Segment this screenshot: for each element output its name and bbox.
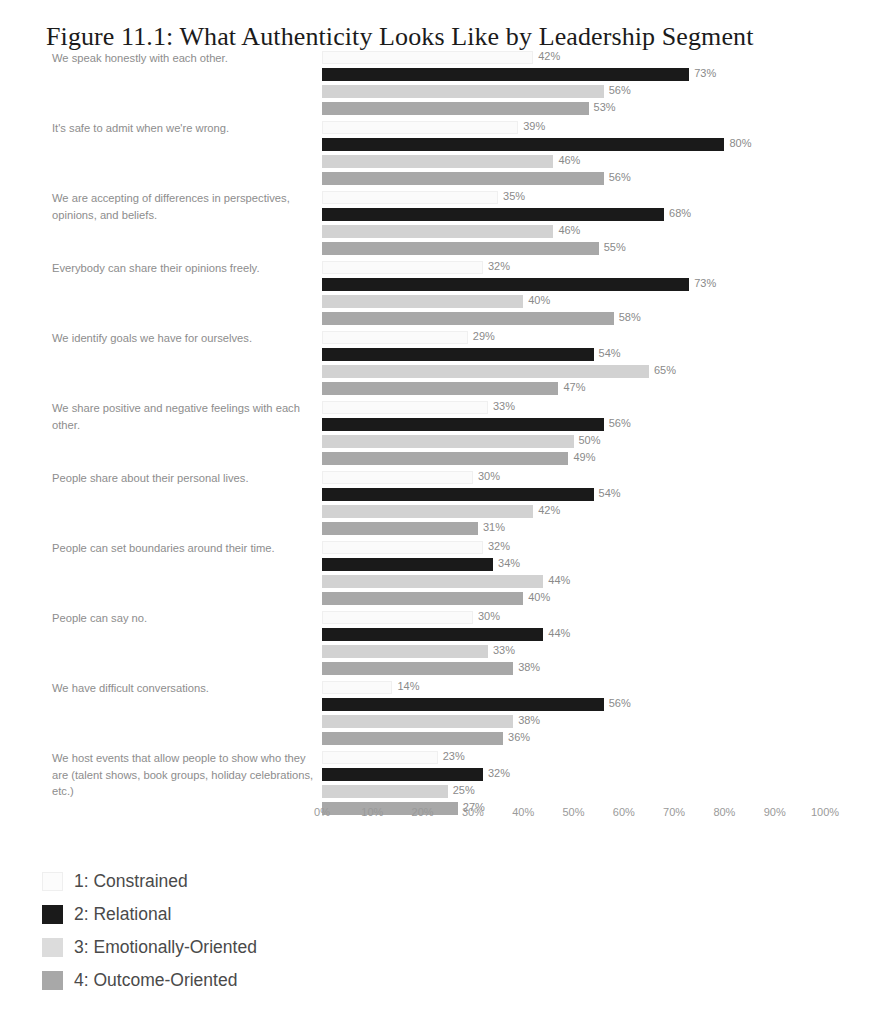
bar-series-1 (322, 751, 438, 764)
x-axis-tick: 100% (811, 806, 839, 818)
legend-item: 4: Outcome-Oriented (42, 964, 462, 997)
bar-stack: 42%73%56%53% (0, 50, 876, 118)
bar-series-4 (322, 592, 523, 605)
bar-value-label: 36% (508, 731, 530, 743)
bar-row: 39% (0, 120, 876, 137)
bar-value-label: 33% (493, 644, 515, 656)
x-axis-tick: 50% (562, 806, 584, 818)
bar-row: 80% (0, 137, 876, 154)
bar-row: 31% (0, 521, 876, 538)
bar-series-3 (322, 295, 523, 308)
bar-value-label: 54% (599, 487, 621, 499)
x-axis-tick: 70% (663, 806, 685, 818)
bar-series-3 (322, 85, 604, 98)
bar-series-3 (322, 435, 574, 448)
bar-value-label: 38% (518, 661, 540, 673)
bar-group: We are accepting of differences in persp… (0, 190, 876, 260)
bar-value-label: 65% (654, 364, 676, 376)
bar-row: 56% (0, 697, 876, 714)
bar-row: 44% (0, 627, 876, 644)
bar-value-label: 58% (619, 311, 641, 323)
bar-series-3 (322, 645, 488, 658)
bar-row: 58% (0, 311, 876, 328)
legend-item: 1: Constrained (42, 865, 462, 898)
bar-value-label: 32% (488, 767, 510, 779)
bar-value-label: 49% (573, 451, 595, 463)
bar-series-2 (322, 628, 543, 641)
bar-value-label: 47% (563, 381, 585, 393)
x-axis-tick: 40% (512, 806, 534, 818)
bar-series-2 (322, 138, 724, 151)
bar-series-1 (322, 401, 488, 414)
bar-value-label: 44% (548, 627, 570, 639)
bar-group: People share about their personal lives.… (0, 470, 876, 540)
legend-label: 2: Relational (74, 904, 171, 925)
bar-value-label: 56% (609, 84, 631, 96)
bar-row: 33% (0, 644, 876, 661)
bar-row: 54% (0, 487, 876, 504)
bar-row: 73% (0, 277, 876, 294)
bar-series-2 (322, 488, 594, 501)
bar-series-1 (322, 191, 498, 204)
bar-value-label: 50% (579, 434, 601, 446)
bar-value-label: 33% (493, 400, 515, 412)
bar-series-1 (322, 261, 483, 274)
bar-value-label: 56% (609, 697, 631, 709)
legend-label: 4: Outcome-Oriented (74, 970, 237, 991)
bar-series-4 (322, 522, 478, 535)
bar-value-label: 40% (528, 591, 550, 603)
bar-series-3 (322, 575, 543, 588)
bar-row: 30% (0, 470, 876, 487)
x-axis-tick: 30% (462, 806, 484, 818)
bar-series-4 (322, 382, 558, 395)
bar-value-label: 30% (478, 470, 500, 482)
bar-row: 47% (0, 381, 876, 398)
x-axis-tick: 20% (412, 806, 434, 818)
bar-series-3 (322, 715, 513, 728)
bar-stack: 39%80%46%56% (0, 120, 876, 188)
bar-series-1 (322, 121, 518, 134)
bar-series-3 (322, 365, 649, 378)
legend-label: 3: Emotionally-Oriented (74, 937, 257, 958)
bar-row: 46% (0, 154, 876, 171)
bar-value-label: 35% (503, 190, 525, 202)
bar-value-label: 31% (483, 521, 505, 533)
bar-group: We identify goals we have for ourselves.… (0, 330, 876, 400)
bar-row: 30% (0, 610, 876, 627)
bar-series-4 (322, 732, 503, 745)
legend-label: 1: Constrained (74, 871, 188, 892)
bar-value-label: 32% (488, 540, 510, 552)
bar-stack: 33%56%50%49% (0, 400, 876, 468)
bar-row: 29% (0, 330, 876, 347)
bar-series-1 (322, 51, 533, 64)
bar-row: 33% (0, 400, 876, 417)
bar-value-label: 73% (694, 277, 716, 289)
bar-series-1 (322, 471, 473, 484)
bar-value-label: 80% (729, 137, 751, 149)
bar-stack: 30%44%33%38% (0, 610, 876, 678)
bar-row: 54% (0, 347, 876, 364)
bar-series-1 (322, 611, 473, 624)
bar-value-label: 46% (558, 154, 580, 166)
bar-value-label: 56% (609, 417, 631, 429)
bar-series-2 (322, 558, 493, 571)
bar-series-4 (322, 172, 604, 185)
bar-stack: 32%34%44%40% (0, 540, 876, 608)
bar-value-label: 34% (498, 557, 520, 569)
bar-row: 55% (0, 241, 876, 258)
bar-value-label: 73% (694, 67, 716, 79)
bar-series-1 (322, 681, 392, 694)
bar-value-label: 55% (604, 241, 626, 253)
bar-series-2 (322, 418, 604, 431)
bar-row: 38% (0, 661, 876, 678)
bar-row: 25% (0, 784, 876, 801)
bar-series-1 (322, 331, 468, 344)
legend-swatch-icon (42, 872, 63, 891)
legend-swatch-icon (42, 938, 63, 957)
bar-value-label: 46% (558, 224, 580, 236)
bar-value-label: 44% (548, 574, 570, 586)
bar-value-label: 42% (538, 50, 560, 62)
bar-value-label: 53% (594, 101, 616, 113)
bar-value-label: 68% (669, 207, 691, 219)
bar-series-1 (322, 541, 483, 554)
